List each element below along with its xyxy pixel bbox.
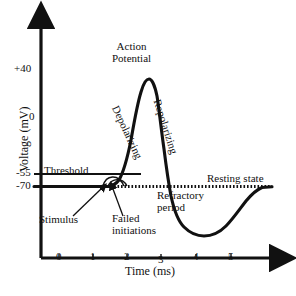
y-tick-plus40: +40 [14,63,31,75]
stimulus-label: Stimulus [39,214,78,226]
x-tick-5: 5 [228,251,234,263]
x-tick-4: 4 [193,251,199,263]
failed-initiations-label: Failed initiations [112,213,156,236]
refractory-period-label: Refractory period [157,190,204,213]
y-axis-label: Voltage (mV) [18,107,31,172]
x-tick-1: 1 [90,251,96,263]
x-tick-2: 2 [124,251,130,263]
x-axis-label: Time (ms) [125,265,175,278]
x-tick-0: 0 [56,251,62,263]
stimulus-pointer [73,189,101,216]
action-potential-label: Action Potential [112,41,151,64]
y-tick-minus70: -70 [16,180,31,192]
threshold-label: Threshold [44,165,89,177]
action-potential-figure: +40 0 -55 -70 Voltage (mV) 0 1 2 3 4 5 T… [0,0,296,296]
resting-state-label: Resting state [207,173,264,185]
